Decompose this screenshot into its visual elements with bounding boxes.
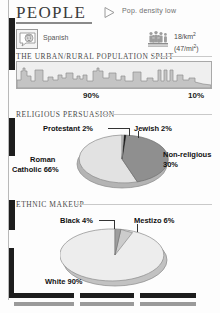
- skyline-graphic: [17, 62, 211, 88]
- leader-line-jewish: [138, 131, 139, 138]
- bottom-border-gap-2: [134, 293, 140, 298]
- density-metric-exponent: 2: [193, 31, 196, 37]
- language-label: Spanish: [43, 34, 68, 41]
- speech-face-icon: [16, 29, 38, 49]
- population-density-value: 18/km2 (47/mi2): [174, 30, 199, 54]
- label-protestant: Protestant 2%: [43, 124, 93, 133]
- label-jewish: Jewish 2%: [134, 124, 172, 133]
- page-border-left-bottom: [9, 248, 14, 298]
- section-rule-urban-rural: [152, 56, 212, 57]
- leader-line-mestizo: [137, 224, 138, 232]
- pop-density-summary: Pop. density low: [122, 7, 176, 14]
- leader-line-black-v: [114, 220, 115, 229]
- page-border-bottom: [9, 293, 214, 298]
- bottom-tab-mark-2: [80, 302, 134, 306]
- label-nonreligious-line2: 30%: [163, 160, 178, 169]
- label-white: White 90%: [45, 277, 83, 286]
- title-underline: [16, 22, 92, 24]
- density-metric: 18/km: [174, 33, 193, 40]
- bottom-tab-mark-3: [140, 302, 196, 306]
- leader-line-black-h: [99, 220, 115, 221]
- label-mestizo: Mestizo 6%: [134, 216, 174, 225]
- label-catholic-line1: Roman: [30, 155, 55, 164]
- label-nonreligious-line1: Non-religious: [163, 150, 211, 159]
- urban-percentage-label: 90%: [83, 91, 99, 100]
- bottom-tab-mark-1: [14, 302, 74, 306]
- section-heading-ethnic: ETHNIC MAKEUP: [16, 200, 84, 209]
- ethnic-pie-chart: [60, 222, 170, 298]
- info-row: Spanish 18/km2 (47/mi2): [16, 29, 212, 51]
- rural-percentage-label: 10%: [188, 91, 204, 100]
- page-title: PEOPLE: [16, 3, 86, 22]
- section-heading-urban-rural: THE URBAN/RURAL POPULATION SPLIT: [16, 52, 174, 61]
- density-imperial: (47/mi: [174, 45, 193, 52]
- bottom-border-gap-3: [196, 293, 214, 298]
- label-black: Black 4%: [60, 216, 93, 225]
- religion-pie-chart: [74, 131, 170, 197]
- edge-tab-mark-1: [9, 18, 15, 70]
- edge-tab-mark-2: [9, 118, 15, 156]
- edge-tab-mark-3: [9, 200, 15, 230]
- leader-line-protestant-v: [129, 128, 130, 136]
- population-density-icon: [147, 30, 169, 48]
- section-rule-ethnic: [76, 204, 212, 205]
- density-imperial-close: ): [196, 45, 198, 52]
- bottom-border-gap-1: [74, 293, 80, 298]
- label-catholic-line2: Catholic 66%: [12, 165, 59, 174]
- leader-line-protestant-h: [108, 128, 130, 129]
- section-rule-religion: [97, 114, 212, 115]
- urban-rural-chart: [16, 61, 212, 89]
- people-infographic-page: PEOPLE Pop. density low Spanish: [0, 0, 220, 313]
